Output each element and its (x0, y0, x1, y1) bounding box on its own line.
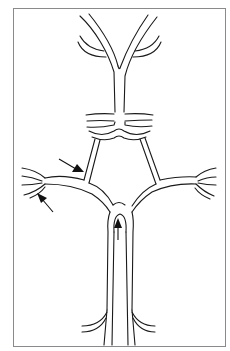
ring-sides (84, 138, 160, 184)
top-branch (78, 14, 161, 112)
arrow-left-upper (59, 159, 84, 172)
upper-crossbars (86, 114, 153, 140)
right-lateral-branch (132, 168, 216, 212)
vessel-diagram (0, 0, 230, 351)
arrow-center (114, 218, 122, 240)
arrow-left-lower (37, 193, 53, 212)
diagram-canvas (0, 0, 230, 351)
left-lateral-branch (22, 168, 113, 212)
